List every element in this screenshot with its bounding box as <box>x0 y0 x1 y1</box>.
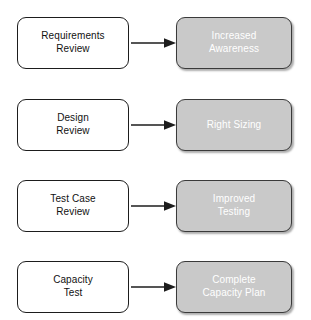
target-box-label: Increased Awareness <box>205 30 263 56</box>
target-box-improved-testing[interactable]: Improved Testing <box>176 180 292 232</box>
source-box-capacity-test[interactable]: Capacity Test <box>17 261 129 313</box>
source-box-label: Test Case Review <box>46 193 99 219</box>
flow-row: Test Case Review Improved Testing <box>0 180 311 232</box>
target-box-label: Complete Capacity Plan <box>199 274 270 300</box>
source-box-label: Capacity Test <box>49 274 97 300</box>
source-box-label: Requirements Review <box>37 30 108 56</box>
right-arrow-icon <box>131 119 177 131</box>
flow-row: Requirements Review Increased Awareness <box>0 17 311 69</box>
flow-row: Design Review Right Sizing <box>0 99 311 151</box>
source-box-test-case-review[interactable]: Test Case Review <box>17 180 129 232</box>
target-box-label: Improved Testing <box>209 193 260 219</box>
target-box-complete-capacity-plan[interactable]: Complete Capacity Plan <box>176 261 292 313</box>
source-box-requirements-review[interactable]: Requirements Review <box>17 17 129 69</box>
flow-row: Capacity Test Complete Capacity Plan <box>0 261 311 313</box>
right-arrow-icon <box>131 281 177 293</box>
source-box-label: Design Review <box>52 112 93 138</box>
target-box-increased-awareness[interactable]: Increased Awareness <box>176 17 292 69</box>
right-arrow-icon <box>131 200 177 212</box>
right-arrow-icon <box>131 37 177 49</box>
target-box-right-sizing[interactable]: Right Sizing <box>176 99 292 151</box>
source-box-design-review[interactable]: Design Review <box>17 99 129 151</box>
target-box-label: Right Sizing <box>203 119 266 132</box>
process-flow-diagram: Requirements Review Increased Awareness … <box>0 0 311 320</box>
